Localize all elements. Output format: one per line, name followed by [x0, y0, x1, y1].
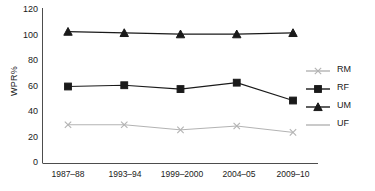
legend-swatch-um	[305, 99, 331, 111]
legend-label-uf: UF	[331, 119, 349, 128]
x-tick-4: 2009–10	[258, 170, 328, 179]
legend-swatch-rm	[305, 63, 331, 75]
line-chart: WPR% 120 100 80 60 40 20 0 1987–88 1993–…	[0, 0, 375, 191]
series-layer	[64, 27, 297, 135]
legend-label-rf: RF	[331, 83, 349, 92]
legend-item-uf[interactable]: UF	[305, 114, 375, 132]
chart-legend: RM RF UM UF	[305, 60, 375, 132]
legend-label-um: UM	[331, 101, 351, 110]
legend-item-rm[interactable]: RM	[305, 60, 375, 78]
series-rf	[65, 79, 297, 104]
legend-swatch-uf	[305, 117, 331, 129]
legend-label-rm: RM	[331, 65, 351, 74]
series-um	[64, 27, 297, 37]
series-rm	[65, 122, 296, 136]
legend-item-um[interactable]: UM	[305, 96, 375, 114]
legend-item-rf[interactable]: RF	[305, 78, 375, 96]
legend-swatch-rf	[305, 81, 331, 93]
